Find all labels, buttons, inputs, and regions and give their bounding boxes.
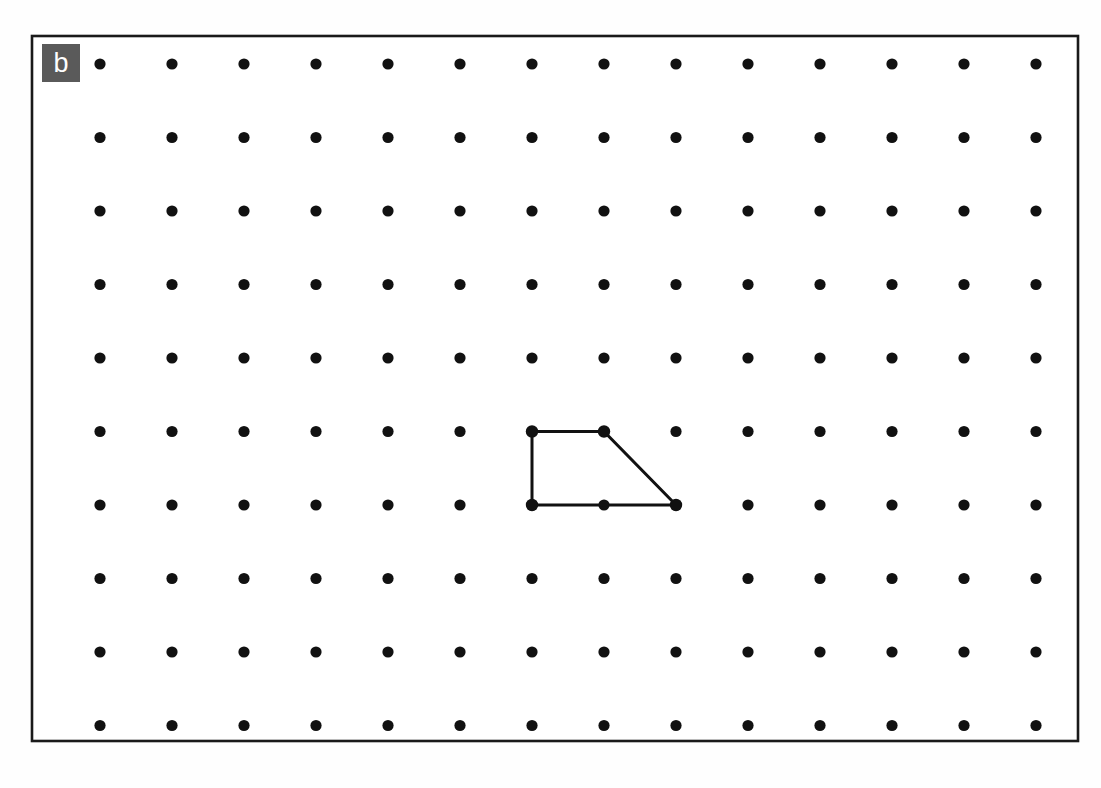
grid-dot: [382, 426, 393, 437]
grid-dot: [382, 499, 393, 510]
grid-dot: [886, 58, 897, 69]
grid-dot: [310, 499, 321, 510]
grid-dot: [238, 132, 249, 143]
grid-dot: [454, 132, 465, 143]
grid-dot: [670, 720, 681, 731]
grid-dot: [670, 279, 681, 290]
grid-dot: [670, 646, 681, 657]
grid-dot: [598, 58, 609, 69]
grid-dot: [814, 279, 825, 290]
grid-dot: [94, 132, 105, 143]
grid-dot: [742, 426, 753, 437]
grid-dot: [166, 132, 177, 143]
grid-dot: [310, 279, 321, 290]
grid-dot: [238, 426, 249, 437]
grid-dot: [454, 279, 465, 290]
grid-dot: [382, 132, 393, 143]
grid-dot: [958, 646, 969, 657]
grid-dot: [238, 352, 249, 363]
grid-dot: [886, 646, 897, 657]
grid-dot: [454, 205, 465, 216]
grid-dot: [94, 499, 105, 510]
grid-dot: [598, 720, 609, 731]
grid-dot: [382, 720, 393, 731]
grid-dot: [886, 352, 897, 363]
grid-dot: [598, 205, 609, 216]
polygon-vertex[interactable]: [670, 499, 682, 511]
grid-dot: [94, 352, 105, 363]
grid-dot: [670, 132, 681, 143]
grid-dot: [958, 426, 969, 437]
grid-dot: [310, 352, 321, 363]
grid-dot: [598, 352, 609, 363]
grid-dot: [742, 132, 753, 143]
grid-dot: [238, 720, 249, 731]
grid-dot: [814, 646, 825, 657]
panel-label-badge: b: [42, 44, 80, 82]
grid-dot: [526, 58, 537, 69]
grid-dot: [814, 132, 825, 143]
grid-dot: [742, 352, 753, 363]
grid-dot: [958, 58, 969, 69]
grid-dot: [958, 720, 969, 731]
grid-dot: [310, 720, 321, 731]
grid-dot: [886, 132, 897, 143]
grid-dot: [670, 58, 681, 69]
grid-dot: [94, 205, 105, 216]
grid-dot: [166, 426, 177, 437]
grid-dot: [814, 205, 825, 216]
grid-dot: [94, 426, 105, 437]
grid-dot: [1030, 499, 1041, 510]
figure-canvas: b: [0, 0, 1101, 788]
grid-dot: [382, 646, 393, 657]
grid-dot: [814, 720, 825, 731]
polygon-vertex[interactable]: [598, 425, 610, 437]
grid-dot: [166, 646, 177, 657]
grid-dot: [670, 573, 681, 584]
grid-dot: [1030, 132, 1041, 143]
grid-dot: [526, 205, 537, 216]
grid-dot: [454, 426, 465, 437]
grid-dot: [526, 646, 537, 657]
grid-dot: [238, 205, 249, 216]
grid-dot: [814, 426, 825, 437]
grid-dot: [238, 573, 249, 584]
grid-dot: [166, 279, 177, 290]
grid-dot: [886, 426, 897, 437]
grid-dot: [886, 573, 897, 584]
grid-dot: [310, 573, 321, 584]
grid-dot: [454, 573, 465, 584]
grid-dot: [742, 205, 753, 216]
grid-dot: [94, 58, 105, 69]
grid-dot: [166, 499, 177, 510]
grid-dot: [310, 132, 321, 143]
grid-dot: [886, 499, 897, 510]
grid-dot: [454, 58, 465, 69]
grid-dot: [1030, 426, 1041, 437]
grid-dot: [742, 646, 753, 657]
grid-dot: [598, 646, 609, 657]
grid-dot: [382, 573, 393, 584]
polygon-vertex[interactable]: [526, 499, 538, 511]
grid-dot: [670, 426, 681, 437]
grid-dot: [742, 58, 753, 69]
grid-dot: [958, 352, 969, 363]
panel-label-text: b: [53, 50, 68, 77]
grid-dot: [526, 573, 537, 584]
grid-dot: [310, 646, 321, 657]
grid-dot: [238, 646, 249, 657]
grid-dot: [382, 58, 393, 69]
grid-dot: [94, 279, 105, 290]
grid-dot: [886, 205, 897, 216]
grid-dot: [454, 646, 465, 657]
grid-dot: [94, 573, 105, 584]
grid-dot: [886, 720, 897, 731]
grid-dot: [1030, 720, 1041, 731]
grid-dot: [814, 499, 825, 510]
grid-dot: [166, 352, 177, 363]
grid-dot: [166, 573, 177, 584]
grid-dot: [742, 279, 753, 290]
polygon-vertex[interactable]: [526, 425, 538, 437]
grid-dot: [526, 352, 537, 363]
grid-dot: [598, 573, 609, 584]
